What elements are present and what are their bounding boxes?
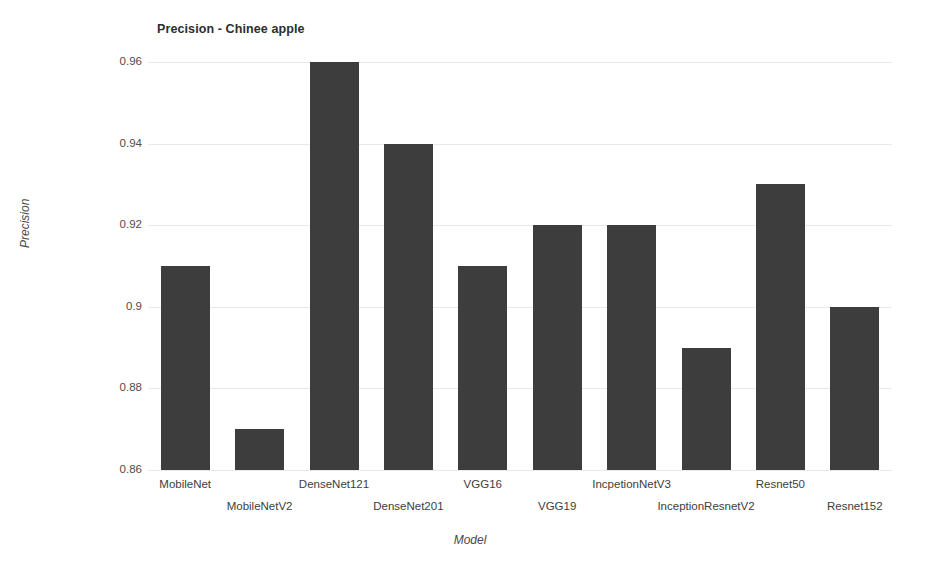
chart-title: Precision - Chinee apple: [157, 22, 305, 36]
x-tick-label: Resnet50: [756, 478, 805, 490]
x-axis-tick-labels: MobileNetMobileNetV2DenseNet121DenseNet2…: [0, 470, 940, 520]
bar: [235, 429, 284, 470]
x-axis-title: Model: [0, 533, 940, 547]
x-tick-label: IncpetionNetV3: [592, 478, 671, 490]
x-tick-label: Resnet152: [827, 500, 883, 512]
x-tick-label: VGG16: [464, 478, 502, 490]
gridline: [148, 62, 892, 63]
bar: [458, 266, 507, 470]
y-tick-label: 0.94: [100, 138, 142, 150]
plot-area: [148, 62, 892, 470]
y-tick-label: 0.9: [100, 301, 142, 313]
y-tick-label: 0.88: [100, 382, 142, 394]
x-tick-label: MobileNetV2: [227, 500, 293, 512]
bar: [310, 62, 359, 470]
bar: [682, 348, 731, 470]
y-tick-label: 0.92: [100, 219, 142, 231]
bar: [533, 225, 582, 470]
bar: [830, 307, 879, 470]
bar: [384, 144, 433, 470]
x-tick-label: DenseNet201: [373, 500, 443, 512]
x-tick-label: VGG19: [538, 500, 576, 512]
y-axis-title: Precision: [18, 199, 32, 248]
gridline: [148, 144, 892, 145]
y-tick-label: 0.96: [100, 56, 142, 68]
y-axis-tick-labels: 0.860.880.90.920.940.96: [96, 62, 142, 470]
bar: [607, 225, 656, 470]
x-tick-label: MobileNet: [159, 478, 211, 490]
bar: [161, 266, 210, 470]
bar: [756, 184, 805, 470]
x-tick-label: DenseNet121: [299, 478, 369, 490]
chart-figure: Precision - Chinee apple Precision 0.860…: [0, 0, 940, 562]
x-tick-label: InceptionResnetV2: [657, 500, 754, 512]
